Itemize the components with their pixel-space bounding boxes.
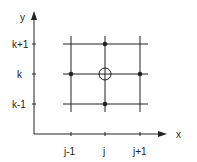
grid: [63, 36, 148, 112]
ticks: [32, 44, 140, 136]
stencil-diagram: y x k+1 k k-1 j-1 j j+1: [0, 0, 197, 162]
y-axis-arrow-icon: [31, 11, 37, 20]
x-tick-label-jplus1: j+1: [132, 146, 147, 157]
x-axis-arrow-icon: [158, 131, 167, 137]
y-tick-label-kplus1: k+1: [12, 39, 29, 50]
y-tick-label-k: k: [17, 69, 23, 80]
x-axis-label: x: [176, 129, 181, 140]
x-tick-label-j: j: [102, 146, 105, 157]
y-tick-label-kminus1: k-1: [12, 99, 26, 110]
x-tick-label-jminus1: j-1: [63, 146, 76, 157]
y-axis-label: y: [20, 12, 25, 23]
point-north: [103, 42, 108, 47]
point-south: [103, 102, 108, 107]
point-east: [138, 72, 143, 77]
point-west: [69, 72, 74, 77]
